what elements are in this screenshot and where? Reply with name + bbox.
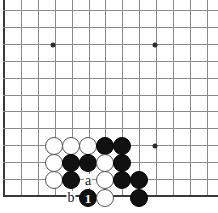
grid-line-vertical-10 bbox=[173, 0, 174, 197]
star-point-lower-right bbox=[153, 144, 158, 149]
black-stone-5[interactable] bbox=[113, 154, 131, 172]
grid-line-horizontal-0 bbox=[3, 10, 218, 11]
grid-line-vertical-2 bbox=[38, 0, 39, 197]
white-stone-4[interactable] bbox=[45, 154, 63, 172]
black-stone-3[interactable] bbox=[62, 154, 80, 172]
black-stone-9[interactable] bbox=[130, 189, 148, 207]
grid-line-vertical-1 bbox=[21, 0, 22, 197]
white-stone-7[interactable] bbox=[96, 171, 114, 189]
point-label-a[interactable]: a bbox=[84, 174, 92, 188]
grid-line-horizontal-3 bbox=[3, 61, 218, 62]
grid-line-vertical-0 bbox=[3, 0, 5, 197]
black-stone-move-1-move-number: 1 bbox=[80, 190, 96, 206]
grid-line-horizontal-5 bbox=[3, 95, 218, 96]
white-stone-1[interactable] bbox=[45, 137, 63, 155]
white-stone-5[interactable] bbox=[96, 154, 114, 172]
grid-line-vertical-9 bbox=[156, 0, 157, 197]
black-stone-4[interactable] bbox=[79, 154, 97, 172]
white-stone-8[interactable] bbox=[96, 189, 114, 207]
black-stone-7[interactable] bbox=[113, 171, 131, 189]
go-board-diagram: 1ab bbox=[0, 0, 218, 213]
grid-line-horizontal-7 bbox=[3, 128, 218, 129]
white-stone-6[interactable] bbox=[45, 171, 63, 189]
grid-line-horizontal-4 bbox=[3, 78, 218, 79]
black-stone-move-1[interactable]: 1 bbox=[79, 189, 97, 207]
black-stone-1[interactable] bbox=[96, 137, 114, 155]
star-point-upper-left bbox=[51, 43, 56, 48]
grid-line-vertical-11 bbox=[190, 0, 191, 197]
goban-grid: 1ab bbox=[0, 0, 218, 213]
grid-line-horizontal-1 bbox=[3, 27, 218, 28]
black-stone-8[interactable] bbox=[130, 171, 148, 189]
star-point-upper-right bbox=[153, 43, 158, 48]
white-stone-3[interactable] bbox=[79, 137, 97, 155]
point-label-b[interactable]: b bbox=[67, 191, 76, 205]
grid-line-horizontal-6 bbox=[3, 111, 218, 112]
grid-line-horizontal-2 bbox=[3, 44, 218, 45]
grid-line-vertical-12 bbox=[207, 0, 208, 197]
white-stone-2[interactable] bbox=[62, 137, 80, 155]
black-stone-2[interactable] bbox=[113, 137, 131, 155]
grid-line-vertical-8 bbox=[139, 0, 140, 197]
black-stone-6[interactable] bbox=[62, 171, 80, 189]
